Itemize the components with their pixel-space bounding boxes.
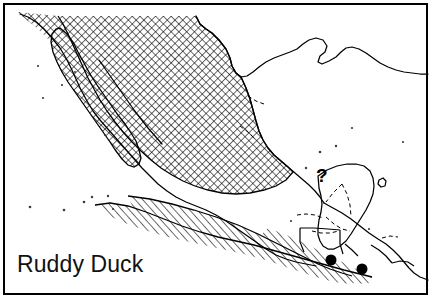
- record-point-2: [357, 264, 368, 275]
- species-label: Ruddy Duck: [17, 251, 144, 277]
- range-map-canvas: ? Ruddy Duck: [0, 0, 431, 299]
- range-map-figure: ? Ruddy Duck: [0, 0, 431, 299]
- question-mark-annotation: ?: [316, 165, 328, 186]
- record-point-1: [326, 255, 337, 266]
